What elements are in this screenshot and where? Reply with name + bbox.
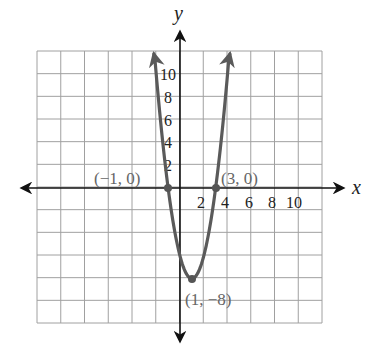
left-root-label: (−1, 0): [94, 169, 140, 188]
x-tick-label: 2: [197, 194, 205, 211]
x-axis-label: x: [351, 176, 361, 198]
parabola-curve: [154, 54, 230, 279]
y-tick-label: 4: [164, 134, 172, 151]
right-root-label: (3, 0): [221, 169, 258, 188]
x-tick-label: 8: [268, 194, 276, 211]
vertex-point: [188, 275, 196, 283]
x-tick-label: 6: [245, 194, 253, 211]
coordinate-plane: x y 2 4 6 8 10 10 8 6 4 2 (−1, 0) (3, 0)…: [0, 0, 365, 345]
y-tick-label: 8: [164, 89, 172, 106]
x-tick-label: 10: [286, 194, 302, 211]
y-axis-label: y: [172, 2, 183, 25]
y-tick-labels: 10 8 6 4 2: [160, 66, 176, 174]
vertex-label: (1, −8): [185, 290, 231, 309]
y-tick-label: 10: [160, 66, 176, 83]
y-tick-label: 6: [164, 112, 172, 129]
right-root-point: [212, 184, 220, 192]
x-tick-label: 4: [221, 194, 229, 211]
left-root-point: [164, 184, 172, 192]
